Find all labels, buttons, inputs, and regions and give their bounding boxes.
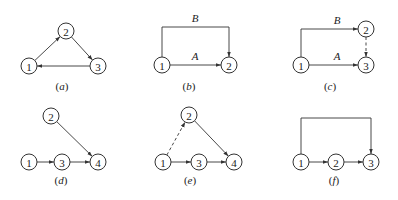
edge-label-B: B <box>192 12 199 24</box>
panel-caption: (f) <box>329 174 340 187</box>
panel-d: 1234(d) <box>21 108 106 187</box>
node-2: 2 <box>181 107 197 123</box>
edge-1-to-2-dashed <box>167 122 185 155</box>
edge-label-B: B <box>334 14 341 26</box>
node-3: 3 <box>90 58 106 74</box>
edge-2-to-4 <box>195 121 229 156</box>
node-3: 3 <box>191 154 207 170</box>
node-2: 2 <box>328 154 344 170</box>
node-3: 3 <box>358 57 374 73</box>
node-1: 1 <box>155 154 171 170</box>
edge-1-to-3 <box>301 118 371 154</box>
node-label: 3 <box>363 60 369 72</box>
node-2: 2 <box>358 21 374 37</box>
node-label: 1 <box>159 60 165 72</box>
node-3: 3 <box>54 154 70 170</box>
node-label: 3 <box>368 157 374 169</box>
node-2: 2 <box>58 23 74 39</box>
node-1: 1 <box>21 154 37 170</box>
panel-caption: (b) <box>183 80 196 93</box>
node-label: 4 <box>95 157 101 169</box>
node-3: 3 <box>363 154 379 170</box>
node-2: 2 <box>221 57 237 73</box>
edge-2-to-3 <box>71 37 92 60</box>
panel-a: 123(a) <box>21 23 106 93</box>
panel-c: AB123(c) <box>293 14 374 93</box>
node-label: 2 <box>333 157 339 169</box>
node-1: 1 <box>154 57 170 73</box>
network-diagram-canvas: 123(a)AB12(b)AB123(c)1234(d)1234(e)123(f… <box>0 0 398 200</box>
node-label: 2 <box>186 110 192 122</box>
node-label: 2 <box>226 60 232 72</box>
edge-label-A: A <box>333 50 341 62</box>
node-label: 1 <box>26 61 32 73</box>
node-label: 2 <box>48 111 54 123</box>
panel-b: AB12(b) <box>154 12 237 93</box>
panel-caption: (c) <box>324 80 337 93</box>
node-label: 1 <box>298 60 304 72</box>
panel-f: 123(f) <box>293 118 379 187</box>
panel-e: 1234(e) <box>155 107 242 187</box>
edge-2-to-4 <box>57 122 93 157</box>
node-label: 4 <box>231 157 237 169</box>
node-label: 3 <box>196 157 202 169</box>
node-label: 1 <box>26 157 32 169</box>
panel-caption: (a) <box>56 80 69 93</box>
node-1: 1 <box>293 154 309 170</box>
node-label: 2 <box>363 24 369 36</box>
node-label: 3 <box>59 157 65 169</box>
panel-caption: (d) <box>55 174 68 187</box>
node-label: 2 <box>63 26 69 38</box>
edge-1-to-2 <box>35 37 60 61</box>
edge-1-to-2 <box>301 29 358 57</box>
node-4: 4 <box>226 154 242 170</box>
node-4: 4 <box>90 154 106 170</box>
node-2: 2 <box>43 108 59 124</box>
node-label: 3 <box>95 61 101 73</box>
edge-label-A: A <box>191 50 199 62</box>
node-label: 1 <box>160 157 166 169</box>
node-1: 1 <box>293 57 309 73</box>
node-label: 1 <box>298 157 304 169</box>
node-1: 1 <box>21 58 37 74</box>
panel-caption: (e) <box>184 174 197 187</box>
